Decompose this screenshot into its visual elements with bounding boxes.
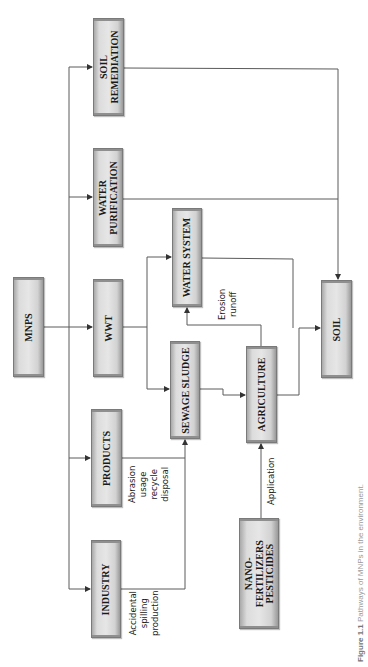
- node-soil: SOIL: [321, 280, 352, 378]
- caption-text: Pathways of MNPs in the environment.: [356, 484, 365, 622]
- edge-sewage-sludge-agriculture: [200, 389, 245, 395]
- node-label: SOIL REMEDIATION: [98, 30, 120, 103]
- node-nano-fertilizers-pesticides: NANO- FERTILIZERS PESTICIDES: [239, 518, 279, 629]
- node-label: WWT: [102, 315, 113, 342]
- node-water-purification: WATER PURIFICATION: [93, 148, 123, 247]
- node-products: PRODUCTS: [91, 409, 122, 507]
- node-agriculture: AGRICULTURE: [246, 346, 277, 443]
- edge-label-erosion: Erosion runoff: [217, 289, 239, 320]
- node-label: MNPS: [23, 313, 34, 341]
- caption-prefix: Figure 1.1: [356, 624, 365, 662]
- edge-label-industry: Accidental spilling production: [128, 590, 161, 636]
- node-soil-remediation: SOIL REMEDIATION: [93, 18, 124, 116]
- node-label: PRODUCTS: [101, 430, 112, 485]
- node-sewage-sludge: SEWAGE SLUDGE: [170, 341, 200, 439]
- node-mnps: MNPS: [13, 277, 44, 377]
- node-label: SOIL: [331, 317, 342, 341]
- node-wwt: WWT: [93, 279, 123, 377]
- node-label: INDUSTRY: [101, 563, 112, 615]
- node-industry: INDUSTRY: [91, 540, 121, 638]
- edge-label-products: Abrasion usage recycle disposal: [127, 466, 171, 503]
- edge-wwt-water-system: [147, 257, 171, 327]
- edge-soil-remediation-soil: [124, 68, 338, 279]
- node-water-system: WATER SYSTEM: [172, 208, 202, 307]
- diagram-connectors: [0, 0, 368, 667]
- edge-agriculture-soil: [277, 328, 320, 395]
- node-label: AGRICULTURE: [256, 357, 267, 431]
- node-label: SEWAGE SLUDGE: [180, 347, 191, 433]
- edge-industry-sewage-sludge: [121, 440, 185, 589]
- edge-wwt-sewage-sludge: [147, 327, 169, 389]
- node-label: NANO- FERTILIZERS PESTICIDES: [243, 540, 275, 607]
- node-label: WATER PURIFICATION: [97, 161, 119, 235]
- edge-water-system-soil: [202, 258, 293, 328]
- edge-label-application: Application: [266, 458, 277, 506]
- node-label: WATER SYSTEM: [182, 218, 193, 298]
- figure-caption: Figure 1.1 Pathways of MNPs in the envir…: [356, 484, 365, 662]
